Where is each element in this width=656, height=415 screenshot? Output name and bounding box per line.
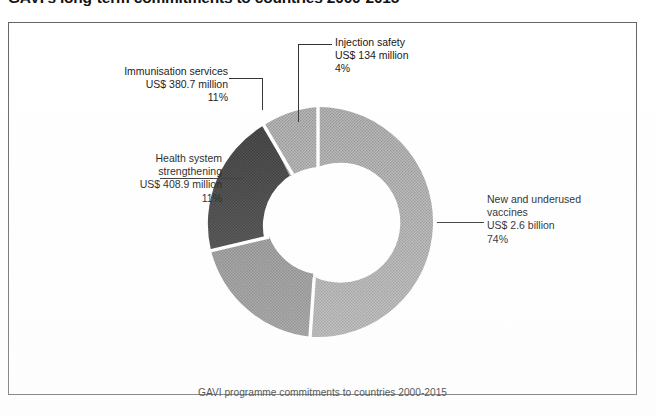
callout-health-system-strengthening: Health system strengthening US$ 408.9 mi… <box>0 152 222 205</box>
callout-health-system-name-line2: strengthening <box>0 165 222 178</box>
callout-injection-safety-name: Injection safety <box>335 36 409 49</box>
callout-health-system-amount: US$ 408.9 million <box>0 178 222 191</box>
callout-immunisation-services-name: Immunisation services <box>0 65 228 78</box>
callout-new-vaccines-percent: 74% <box>487 233 581 246</box>
callout-health-system-name-line1: Health system <box>0 152 222 165</box>
chart-caption: GAVI programme commitments to countries … <box>9 387 636 398</box>
callout-new-vaccines-name-line2: vaccines <box>487 206 581 219</box>
page-title: GAVI's long-term commitments to countrie… <box>8 0 648 12</box>
callout-health-system-percent: 11% <box>0 192 222 205</box>
callout-new-and-underused-vaccines: New and underused vaccines US$ 2.6 billi… <box>487 193 581 246</box>
callout-injection-safety-percent: 4% <box>335 62 409 75</box>
callout-new-vaccines-name-line1: New and underused <box>487 193 581 206</box>
callout-injection-safety-amount: US$ 134 million <box>335 49 409 62</box>
callout-immunisation-services: Immunisation services US$ 380.7 million … <box>0 65 228 105</box>
callout-injection-safety: Injection safety US$ 134 million 4% <box>335 36 409 76</box>
callout-immunisation-services-amount: US$ 380.7 million <box>0 78 228 91</box>
callout-immunisation-services-percent: 11% <box>0 91 228 104</box>
callout-new-vaccines-amount: US$ 2.6 billion <box>487 219 581 232</box>
